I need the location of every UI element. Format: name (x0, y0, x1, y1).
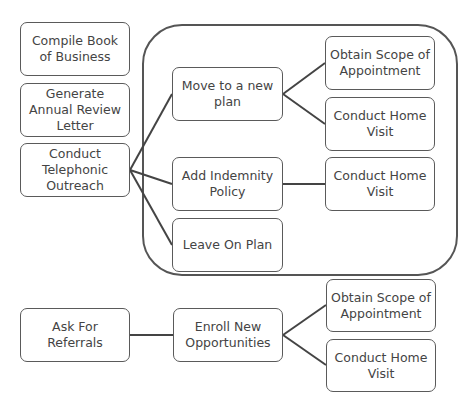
node-enroll-opportunities: Enroll New Opportunities (173, 308, 283, 362)
node-home-visit-2: Conduct Home Visit (325, 157, 435, 211)
node-home-visit-1: Conduct Home Visit (325, 97, 435, 151)
workflow-diagram: Compile Book of Business Generate Annual… (0, 0, 460, 411)
node-generate-review-letter: Generate Annual Review Letter (20, 83, 130, 137)
node-obtain-scope-2: Obtain Scope of Appointment (326, 279, 436, 332)
node-move-new-plan: Move to a new plan (172, 67, 283, 121)
node-telephonic-outreach: Conduct Telephonic Outreach (20, 143, 130, 197)
node-ask-referrals: Ask For Referrals (20, 308, 130, 362)
node-add-indemnity: Add Indemnity Policy (172, 157, 283, 211)
node-leave-on-plan: Leave On Plan (172, 218, 283, 272)
node-compile-book: Compile Book of Business (20, 22, 130, 76)
node-home-visit-3: Conduct Home Visit (326, 339, 436, 392)
node-obtain-scope-1: Obtain Scope of Appointment (325, 36, 435, 90)
